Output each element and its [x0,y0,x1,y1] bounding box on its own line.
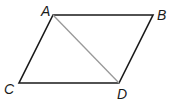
diagonal-ad [53,15,119,83]
vertex-label-a: A [40,3,50,19]
vertex-label-b: B [157,7,166,23]
parallelogram-diagram: A B C D [0,0,170,106]
vertex-label-c: C [4,81,15,97]
vertex-label-d: D [117,86,127,102]
